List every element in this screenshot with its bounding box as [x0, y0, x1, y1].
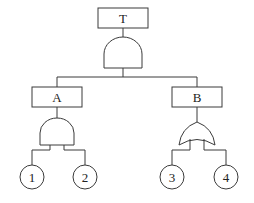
basic-event-2: 2 [73, 165, 97, 189]
and-gate-icon [104, 37, 142, 68]
svg-text:3: 3 [169, 170, 176, 185]
fault-tree-diagram: T A 1 2 B 3 4 [0, 0, 254, 203]
basic-event-1: 1 [20, 165, 44, 189]
basic-event-4: 4 [214, 165, 238, 189]
svg-text:1: 1 [29, 170, 36, 185]
intermediate-event-B: B [172, 87, 222, 107]
svg-text:2: 2 [82, 170, 89, 185]
top-event-label: T [119, 11, 127, 26]
svg-text:4: 4 [223, 170, 230, 185]
or-gate-icon [179, 122, 215, 145]
top-event-T: T [98, 8, 148, 28]
and-gate-icon [40, 118, 74, 145]
event-B-label: B [193, 90, 202, 105]
intermediate-event-A: A [32, 87, 82, 107]
basic-event-3: 3 [160, 165, 184, 189]
event-A-label: A [52, 90, 62, 105]
